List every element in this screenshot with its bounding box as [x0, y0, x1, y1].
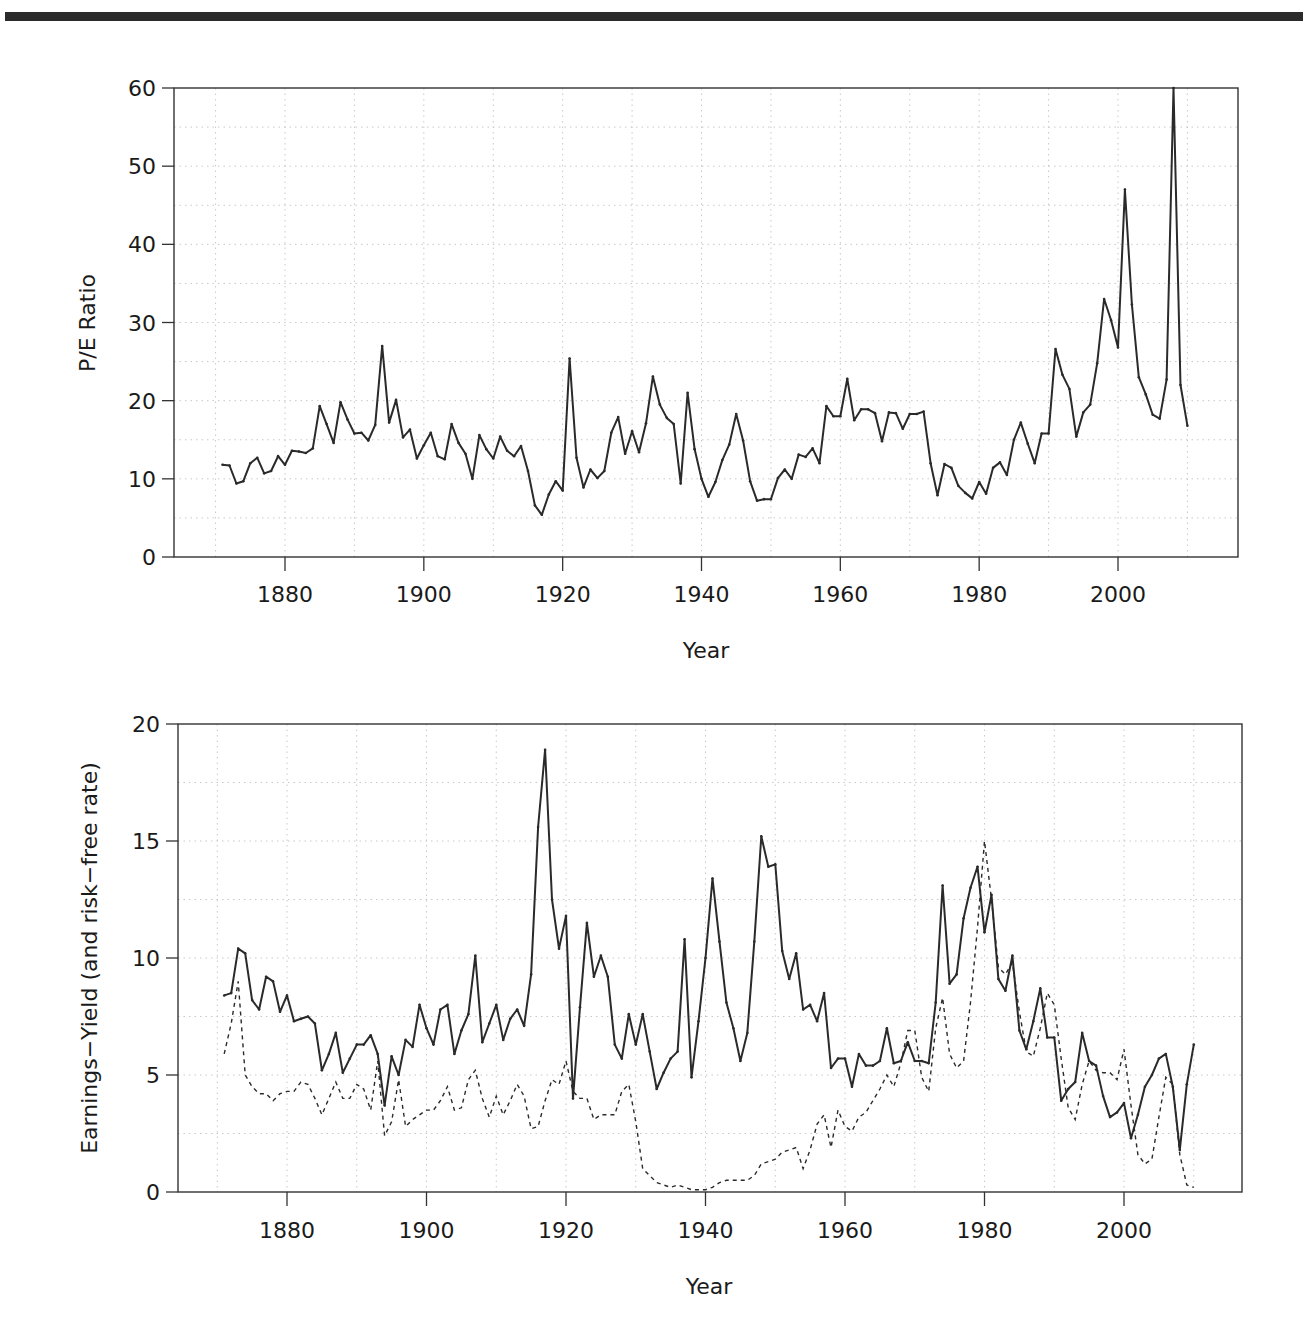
pe-axis-ticks: 1880190019201940196019802000010203040506…	[128, 76, 1146, 607]
y-tick-label: 10	[128, 467, 156, 492]
x-tick-label: 1900	[396, 582, 452, 607]
y-tick-label: 0	[146, 1180, 160, 1205]
x-tick-label: 1940	[678, 1218, 734, 1243]
pe-ratio-chart: 1880190019201940196019802000010203040506…	[75, 76, 1238, 663]
ey-x-axis-title: Year	[685, 1274, 734, 1299]
earnings-yield-chart: 188019001920194019601980200005101520 Yea…	[77, 712, 1242, 1299]
x-tick-label: 1980	[957, 1218, 1013, 1243]
y-tick-label: 50	[128, 154, 156, 179]
pe-series	[221, 87, 1188, 516]
y-tick-label: 5	[146, 1063, 160, 1088]
x-tick-label: 2000	[1096, 1218, 1152, 1243]
pe-grid	[174, 88, 1238, 557]
x-tick-label: 1960	[817, 1218, 873, 1243]
primary-series-line	[223, 88, 1188, 515]
x-tick-label: 2000	[1090, 582, 1146, 607]
x-tick-label: 1920	[538, 1218, 594, 1243]
x-tick-label: 1980	[951, 582, 1007, 607]
ey-series	[223, 748, 1195, 1189]
x-tick-label: 1880	[259, 1218, 315, 1243]
x-tick-label: 1920	[535, 582, 591, 607]
risk-free-rate-line	[224, 841, 1194, 1190]
ey-y-axis-title: Earnings−Yield (and risk−free rate)	[77, 762, 102, 1154]
figure: 1880190019201940196019802000010203040506…	[0, 0, 1308, 1317]
y-tick-label: 10	[132, 946, 160, 971]
y-tick-label: 20	[132, 712, 160, 737]
ey-grid	[178, 724, 1242, 1192]
y-tick-label: 20	[128, 389, 156, 414]
x-tick-label: 1880	[257, 582, 313, 607]
y-tick-label: 40	[128, 232, 156, 257]
x-tick-label: 1940	[674, 582, 730, 607]
y-tick-label: 60	[128, 76, 156, 101]
y-tick-label: 30	[128, 311, 156, 336]
primary-series-line	[224, 750, 1194, 1150]
pe-x-axis-title: Year	[682, 638, 731, 663]
x-tick-label: 1900	[399, 1218, 455, 1243]
y-tick-label: 0	[142, 545, 156, 570]
y-tick-label: 15	[132, 829, 160, 854]
x-tick-label: 1960	[812, 582, 868, 607]
pe-y-axis-title: P/E Ratio	[75, 274, 100, 372]
